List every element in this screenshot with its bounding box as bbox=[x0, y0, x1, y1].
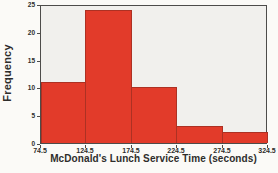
histogram-chart: Frequency 0510152025 74.5124.5174.5224.5… bbox=[0, 0, 278, 173]
y-tick-mark bbox=[37, 33, 40, 34]
y-tick-mark bbox=[37, 116, 40, 117]
plot-area bbox=[40, 5, 267, 144]
y-tick-label: 10 bbox=[9, 85, 35, 91]
y-tick-mark bbox=[37, 61, 40, 62]
histogram-bar bbox=[176, 126, 222, 143]
y-tick-label: 25 bbox=[9, 2, 35, 8]
histogram-bar bbox=[131, 87, 177, 143]
histogram-bar bbox=[41, 82, 86, 143]
y-tick-label: 5 bbox=[9, 113, 35, 119]
y-tick-mark bbox=[37, 5, 40, 6]
y-axis-title: Frequency bbox=[1, 40, 13, 106]
y-tick-label: 20 bbox=[9, 30, 35, 36]
histogram-bar bbox=[222, 132, 268, 143]
x-axis-title: McDonald's Lunch Service Time (seconds) bbox=[40, 153, 267, 164]
y-tick-mark bbox=[37, 88, 40, 89]
y-tick-label: 15 bbox=[9, 58, 35, 64]
histogram-bar bbox=[85, 10, 131, 143]
